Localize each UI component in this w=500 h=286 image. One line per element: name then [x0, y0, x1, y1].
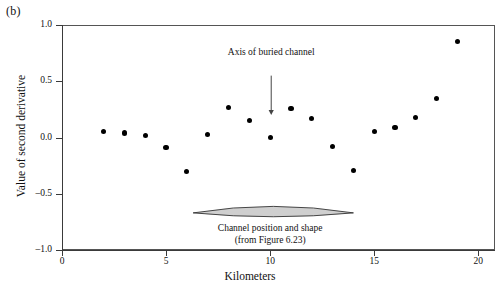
y-axis-title: Value of second derivative	[15, 41, 27, 231]
annotation-axis-of-buried-channel: Axis of buried channel	[171, 47, 371, 57]
figure-panel-b: (b) –1.0–0.50.00.51.0 05101520 Axis of b…	[0, 0, 500, 286]
annotation-channel-position: Channel position and shape (from Figure …	[170, 222, 370, 246]
annotation-channel-line1: Channel position and shape	[218, 223, 323, 233]
x-axis-title: Kilometers	[0, 270, 500, 282]
annotation-channel-line2: (from Figure 6.23)	[235, 235, 306, 245]
arrow-head	[269, 110, 274, 115]
